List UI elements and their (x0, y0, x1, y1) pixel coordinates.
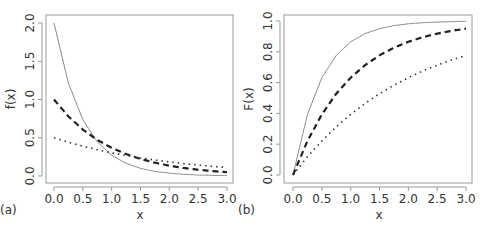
x-tick-label: 2.0 (399, 192, 418, 206)
x-axis-label: x (136, 208, 143, 222)
x-tick-label: 1.0 (102, 192, 121, 206)
series-dotted-line (54, 138, 227, 168)
x-tick-label: 0.0 (283, 192, 302, 206)
y-axis: 0.00.20.40.60.81.0 (261, 11, 280, 184)
x-tick-label: 0.5 (312, 192, 331, 206)
x-tick-label: 0.5 (73, 192, 92, 206)
x-axis: 0.00.51.01.52.02.53.0 (283, 187, 475, 206)
plot-frame (284, 15, 472, 183)
panel-label: (b) (238, 203, 255, 217)
y-tick-label: 1.0 (261, 11, 275, 30)
x-tick-label: 3.0 (217, 192, 236, 206)
series-dashed-line (54, 100, 227, 173)
x-tick-label: 2.5 (428, 192, 447, 206)
series-solid-line (54, 23, 227, 176)
series-layer (293, 21, 466, 175)
x-tick-label: 3.0 (456, 192, 475, 206)
x-axis: 0.00.51.01.52.02.53.0 (44, 187, 236, 206)
y-tick-label: 0.0 (261, 165, 275, 184)
y-tick-label: 1.5 (23, 52, 37, 71)
y-axis-label: f(x) (4, 89, 18, 110)
x-tick-label: 1.5 (131, 192, 150, 206)
y-axis: 0.00.51.01.52.0 (23, 13, 42, 185)
series-dotted-line (293, 55, 466, 175)
y-tick-label: 0.5 (23, 128, 37, 147)
x-tick-label: 0.0 (44, 192, 63, 206)
y-tick-label: 0.8 (261, 42, 275, 61)
x-axis-label: x (375, 208, 382, 222)
x-tick-label: 2.5 (189, 192, 208, 206)
x-tick-label: 1.0 (341, 192, 360, 206)
x-tick-label: 1.5 (370, 192, 389, 206)
y-tick-label: 1.0 (23, 90, 37, 109)
y-tick-label: 0.2 (261, 135, 275, 154)
y-tick-label: 0.6 (261, 73, 275, 92)
y-axis-label: F(x) (242, 87, 256, 110)
y-tick-label: 0.0 (23, 166, 37, 185)
x-tick-label: 2.0 (160, 192, 179, 206)
series-layer (54, 23, 227, 176)
panel-a-pdf-chart: 0.00.51.01.52.02.53.0 0.00.51.01.52.0 x … (0, 13, 237, 222)
figure: 0.00.51.01.52.02.53.0 0.00.51.01.52.0 x … (0, 0, 485, 228)
panel-label: (a) (0, 203, 17, 217)
y-tick-label: 2.0 (23, 13, 37, 32)
y-tick-label: 0.4 (261, 104, 275, 123)
panel-b-cdf-chart: 0.00.51.01.52.02.53.0 0.00.20.40.60.81.0… (238, 11, 476, 222)
series-solid-line (293, 21, 466, 175)
series-dashed-line (293, 29, 466, 175)
